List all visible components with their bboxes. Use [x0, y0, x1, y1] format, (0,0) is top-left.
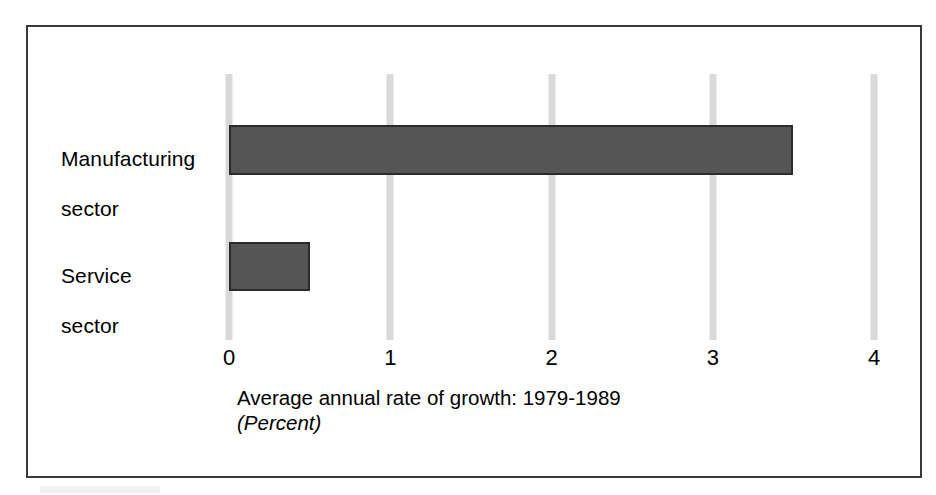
x-axis-caption: Average annual rate of growth: 1979-1989… — [237, 385, 621, 435]
figure-root: Manufacturing sector Service sector 0 1 … — [0, 0, 936, 495]
category-label-manufacturing-line1: Manufacturing — [61, 147, 195, 170]
gridline-0 — [226, 74, 233, 340]
gridline-1 — [387, 74, 394, 340]
x-tick-label-1: 1 — [384, 346, 396, 370]
x-tick-label-4: 4 — [868, 346, 880, 370]
x-tick-label-0: 0 — [223, 346, 235, 370]
scan-artifact — [40, 486, 160, 493]
category-label-service-line2: sector — [61, 314, 119, 337]
gridline-4 — [871, 74, 878, 340]
x-axis-caption-unit: (Percent) — [237, 410, 621, 435]
x-axis-caption-main: Average annual rate of growth: 1979-1989 — [237, 385, 621, 410]
plot-area: Manufacturing sector Service sector 0 1 … — [28, 27, 920, 476]
chart-frame: Manufacturing sector Service sector 0 1 … — [26, 25, 922, 478]
category-label-manufacturing-sector: Manufacturing sector — [61, 121, 195, 221]
gridline-2 — [548, 74, 555, 340]
gridline-3 — [709, 74, 716, 340]
category-label-manufacturing-line2: sector — [61, 197, 119, 220]
bar-manufacturing-sector — [229, 125, 793, 175]
x-tick-label-2: 2 — [545, 346, 557, 370]
category-label-service-sector: Service sector — [61, 238, 132, 338]
x-tick-label-3: 3 — [707, 346, 719, 370]
bar-service-sector — [229, 242, 310, 291]
category-label-service-line1: Service — [61, 264, 132, 287]
